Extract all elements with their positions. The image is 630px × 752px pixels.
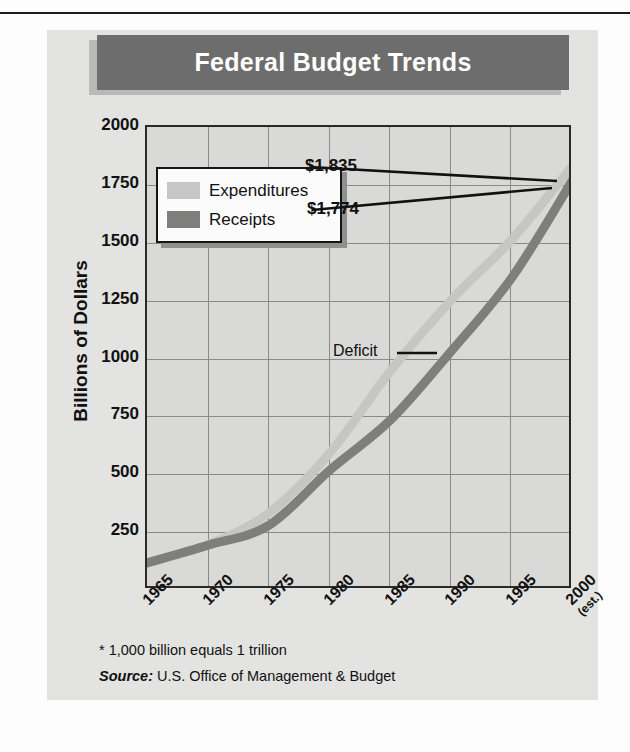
y-tick-label: 1500	[51, 231, 139, 251]
y-axis-title: Billions of Dollars	[70, 221, 92, 461]
page-top-rule	[0, 12, 630, 14]
legend-label-receipts: Receipts	[209, 210, 275, 230]
legend-swatch-receipts	[167, 211, 200, 228]
y-tick-label: 750	[51, 404, 139, 424]
footnote-note: * 1,000 billion equals 1 trillion	[99, 642, 287, 658]
source-text: U.S. Office of Management & Budget	[157, 668, 395, 684]
y-tick-label: 1750	[51, 173, 139, 193]
legend-swatch-expenditures	[167, 182, 200, 199]
annotation-expenditures-value: $1,835	[305, 156, 357, 176]
y-axis-ticks: 2000 1750 1500 1250 1000 750 500 250	[47, 125, 139, 588]
footnote-source: Source: U.S. Office of Management & Budg…	[99, 668, 395, 684]
y-tick-label: 1250	[51, 289, 139, 309]
figure-panel: Federal Budget Trends 2000 1750 1500 125…	[47, 30, 598, 700]
y-tick-label: 500	[51, 462, 139, 482]
title-banner: Federal Budget Trends	[97, 35, 569, 90]
annotation-deficit: Deficit	[333, 342, 377, 360]
y-tick-label: 250	[51, 520, 139, 540]
y-tick-label: 2000	[51, 115, 139, 135]
legend-label-expenditures: Expenditures	[209, 181, 308, 201]
page-title: Federal Budget Trends	[194, 48, 471, 77]
source-label: Source:	[99, 668, 153, 684]
y-tick-label: 1000	[51, 347, 139, 367]
page-background: Federal Budget Trends 2000 1750 1500 125…	[0, 0, 630, 752]
annotation-receipts-value: $1,774	[307, 199, 359, 219]
